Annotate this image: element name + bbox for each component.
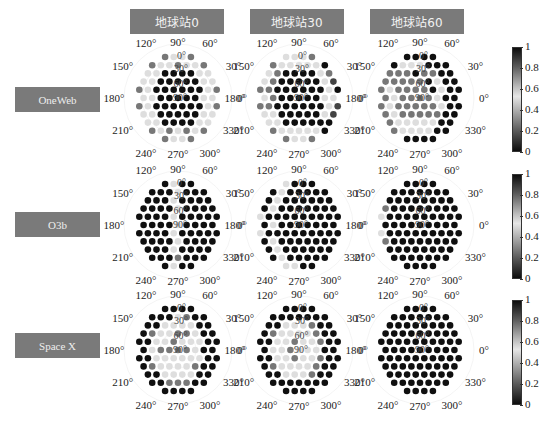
data-dot [417,380,424,387]
data-dot [391,347,398,354]
angle-label: 0° [479,344,489,356]
colorbar-tick-mark [520,131,523,132]
data-dot [434,330,441,337]
data-dot [408,363,415,370]
data-dot [430,322,437,329]
angle-label: 300° [442,399,463,411]
data-dot [417,363,424,370]
colorbar [512,47,522,152]
data-dot [387,339,394,346]
data-dot [412,388,419,395]
data-dot [400,330,407,337]
data-dot [382,347,389,354]
colorbar [512,300,522,405]
angle-label: 120° [378,289,399,301]
data-dot [443,314,450,321]
data-dot [430,388,437,395]
data-dot [404,388,411,395]
data-dot [455,339,462,346]
data-dot [447,322,454,329]
colorbar-tick-mark [520,363,523,364]
data-dot [404,322,411,329]
colorbar-tick-mark [520,405,523,406]
colorbar-tick-mark [520,237,523,238]
colorbar-tick-label: 0.4 [525,231,539,242]
data-dot [395,339,402,346]
data-dot [430,355,437,362]
data-dot [451,347,458,354]
colorbar-tick-label: 0.2 [525,378,539,389]
data-dot [404,339,411,346]
colorbar-tick-mark [520,47,523,48]
data-dot [400,363,407,370]
data-dot [400,347,407,354]
colorbar-tick-label: 0.4 [525,104,539,115]
data-dot [400,380,407,387]
data-dot [434,380,441,387]
data-dot [408,330,415,337]
data-dot [382,363,389,370]
data-dot [443,363,450,370]
data-dot [408,380,415,387]
data-dot [443,330,450,337]
data-dot [404,371,411,378]
data-dot [438,322,445,329]
data-dot [434,347,441,354]
data-dot [387,355,394,362]
colorbar-tick-label: 0.6 [525,83,539,94]
data-dot [395,371,402,378]
colorbar-tick-mark [520,195,523,196]
data-dot [447,339,454,346]
data-dot [430,306,437,313]
colorbar [512,174,522,279]
data-dot [378,355,385,362]
colorbar-tick-label: 0.2 [525,125,539,136]
data-dot [400,314,407,321]
data-dot [387,322,394,329]
data-dot [451,363,458,370]
colorbar-tick-mark [520,68,523,69]
data-dot [451,330,458,337]
radial-label: 0° [419,302,428,313]
colorbar-tick-label: 1 [525,294,531,305]
angle-label: 180° [346,344,367,356]
colorbar-tick-mark [520,342,523,343]
colorbar-tick-mark [520,216,523,217]
colorbar-tick-mark [520,300,523,301]
data-dot [438,339,445,346]
data-dot [404,306,411,313]
colorbar-tick-label: 0.8 [525,315,539,326]
data-dot [443,380,450,387]
colorbar-tick-label: 0.4 [525,357,539,368]
colorbar-tick-label: 0.6 [525,210,539,221]
colorbar-tick-mark [520,174,523,175]
data-dot [430,339,437,346]
colorbar-tick-label: 1 [525,41,531,52]
colorbar-tick-label: 1 [525,168,531,179]
colorbar-tick-mark [520,279,523,280]
data-dot [425,380,432,387]
data-dot [434,363,441,370]
colorbar-tick-mark [520,384,523,385]
data-dot [412,306,419,313]
angle-label: 210° [354,376,375,388]
data-dot [404,355,411,362]
data-dot [378,339,385,346]
angle-label: 330° [465,376,486,388]
data-dot [421,371,428,378]
colorbar-tick-label: 0.6 [525,336,539,347]
data-dot [455,355,462,362]
data-dot [395,322,402,329]
data-dot [438,371,445,378]
data-dot [391,330,398,337]
angle-label: 150° [354,312,375,324]
data-dot [408,314,415,321]
data-dot [391,363,398,370]
data-dot [382,330,389,337]
data-dot [412,355,419,362]
angle-label: 30° [468,312,483,324]
data-dot [391,314,398,321]
data-dot [408,347,415,354]
radial-label: 90° [415,344,429,355]
colorbar-tick-label: 0.8 [525,189,539,200]
